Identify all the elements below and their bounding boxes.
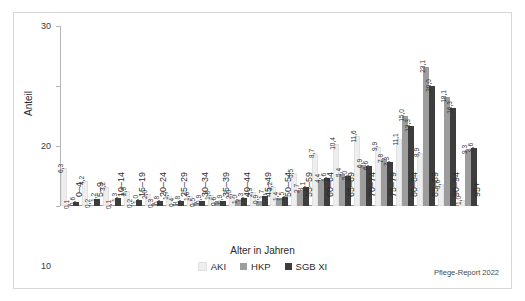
bar-group: 4,20,21,2: [82, 26, 100, 206]
y-axis-title: Anteil: [23, 91, 34, 116]
y-tick-mark: 0: [56, 206, 60, 207]
bar: 0,9: [220, 201, 226, 206]
legend-label: AKI: [211, 261, 226, 272]
bar: 0,8: [157, 201, 163, 206]
bar-value-label: 10,4: [330, 137, 337, 150]
x-tick-label: 15–19: [137, 172, 147, 197]
bar: 1,3: [115, 198, 121, 206]
x-tick-label: 0–4: [74, 182, 84, 197]
bar-value-label: 9,6: [467, 143, 474, 152]
bar-group: 1,09,39,6: [459, 26, 477, 206]
bar: 0,6: [73, 202, 79, 206]
bar-value-label: 0,6: [70, 197, 77, 206]
y-tick-label: 30: [41, 21, 51, 31]
legend-swatch: [240, 263, 247, 270]
bar-value-label: 16,3: [446, 101, 453, 114]
bar-value-label: 13,3: [404, 119, 411, 132]
x-tick-label: 95+: [472, 182, 482, 197]
x-tick-label: 70–74: [367, 172, 377, 197]
bar: 9,6: [471, 148, 477, 206]
x-tick-label: 85–89: [430, 172, 440, 197]
legend-label: HKP: [251, 261, 271, 272]
x-tick-label: 50–54: [283, 172, 293, 197]
legend-swatch: [198, 262, 207, 271]
x-tick-label: 40–44: [242, 172, 252, 197]
chart-figure: Anteil 0102030 6,30,10,64,20,21,23,20,11…: [13, 12, 512, 289]
x-tick-label: 60–64: [325, 172, 335, 197]
legend-item[interactable]: HKP: [240, 261, 271, 272]
bar-value-label: 11,1: [392, 133, 399, 145]
bar: 1,7: [262, 196, 268, 206]
bar-value-label: 11,6: [351, 130, 358, 142]
y-tick-label: 20: [41, 141, 51, 151]
x-tick-label: 20–24: [158, 172, 168, 197]
x-tick-label: 25–29: [179, 172, 189, 197]
bar-value-label: 8,7: [309, 149, 316, 158]
legend-item[interactable]: SGB XI: [285, 261, 328, 272]
bar: 1,5: [282, 197, 288, 206]
legend-label: SGB XI: [296, 261, 328, 272]
x-tick-label: 35–39: [221, 172, 231, 197]
bar-value-label: 6,6: [363, 161, 370, 170]
bar-value-label: 9,9: [371, 142, 378, 151]
footer-note: Pflege-Report 2022: [434, 268, 499, 277]
bar-value-label: 7,3: [383, 157, 390, 166]
x-tick-label: 90–94: [451, 172, 461, 197]
x-tick-label: 10–14: [116, 172, 126, 197]
legend-swatch: [285, 263, 292, 270]
x-tick-label: 55–59: [304, 172, 314, 197]
x-tick-label: 45–49: [263, 172, 273, 197]
x-tick-label: 5–9: [95, 182, 105, 197]
bar-value-label: 20,0: [425, 79, 432, 92]
x-axis-title: Alter in Jahren: [14, 245, 511, 256]
bar-value-label: 6,3: [58, 164, 65, 173]
x-tick-label: 65–69: [346, 172, 356, 197]
legend-item[interactable]: AKI: [198, 261, 226, 272]
bar: 1,3: [241, 198, 247, 206]
bar: 1,0: [136, 200, 142, 206]
bar: 1,2: [94, 199, 100, 206]
x-tick-label: 30–34: [200, 172, 210, 197]
bar: 0,9: [199, 201, 205, 206]
bar: 0,8: [178, 201, 184, 206]
bar-value-label: 23,1: [419, 60, 426, 73]
bar-value-label: 8,9: [413, 148, 420, 157]
bar-value-label: 0,8: [174, 196, 181, 205]
bar-value-label: 0,8: [154, 196, 161, 205]
x-tick-label: 75–79: [388, 172, 398, 197]
x-tick-label: 80–84: [409, 172, 419, 197]
